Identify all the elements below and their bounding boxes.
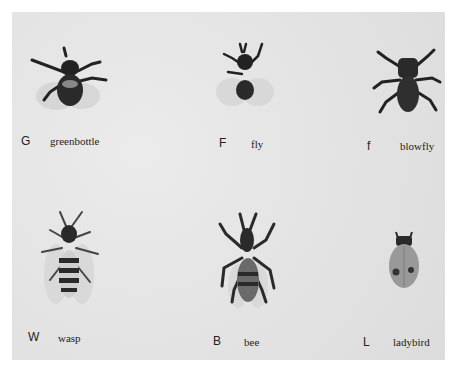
specimen-name-blowfly: blowfly xyxy=(400,140,434,152)
blowfly-image xyxy=(370,44,446,124)
bee-image xyxy=(208,210,288,314)
specimen-name-greenbottle: greenbottle xyxy=(50,135,99,147)
fly-image xyxy=(210,38,280,114)
specimen-letter-ladybird: L xyxy=(363,335,370,349)
specimen-letter-blowfly: f xyxy=(367,139,370,153)
wasp-image xyxy=(26,208,116,316)
specimen-letter-fly: F xyxy=(219,136,226,150)
specimen-letter-wasp: W xyxy=(28,330,39,344)
specimen-name-bee: bee xyxy=(244,336,259,348)
specimen-letter-bee: B xyxy=(213,334,221,348)
specimen-photo: G greenbottle F fly f blowfly xyxy=(12,12,445,360)
specimen-name-wasp: wasp xyxy=(58,332,81,344)
greenbottle-image xyxy=(20,36,112,116)
ladybird-image xyxy=(384,230,424,300)
specimen-letter-greenbottle: G xyxy=(21,134,30,148)
specimen-name-ladybird: ladybird xyxy=(393,336,430,348)
specimen-name-fly: fly xyxy=(251,138,263,150)
